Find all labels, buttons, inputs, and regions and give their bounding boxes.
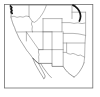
puget-sound-highlight [10,6,12,13]
map-figure [0,0,100,97]
map-canvas [0,0,100,97]
